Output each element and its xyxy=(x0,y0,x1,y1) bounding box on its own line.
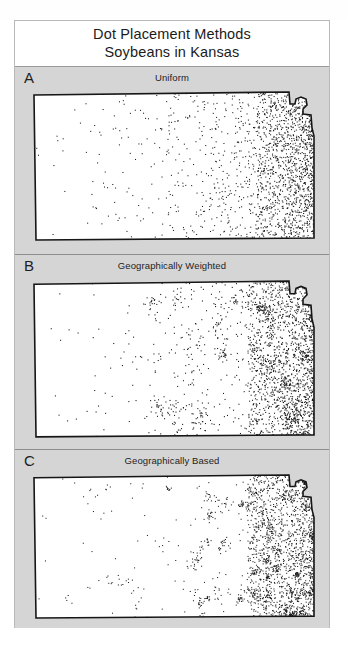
map-kansas-uniform xyxy=(31,90,317,242)
panel-geographically-weighted: B Geographically Weighted xyxy=(15,254,329,449)
scan-margin-top xyxy=(0,0,347,20)
kansas-outline-a xyxy=(34,92,314,240)
figure-title-line-1: Dot Placement Methods xyxy=(93,26,251,43)
map-kansas-geographically-weighted xyxy=(31,279,317,439)
kansas-map-svg-a xyxy=(31,90,317,242)
figure-frame: Dot Placement Methods Soybeans in Kansas… xyxy=(14,20,330,628)
kansas-outline-b xyxy=(34,281,314,437)
panel-uniform: A Uniform xyxy=(15,67,329,254)
kansas-map-svg-c xyxy=(31,473,317,620)
kansas-map-svg-b xyxy=(31,279,317,439)
panel-subtitle-geographically-based: Geographically Based xyxy=(15,455,329,466)
panel-subtitle-geographically-weighted: Geographically Weighted xyxy=(15,260,329,271)
panel-geographically-based: C Geographically Based xyxy=(15,449,329,628)
figure-title-line-2: Soybeans in Kansas xyxy=(105,44,240,61)
map-kansas-geographically-based xyxy=(31,473,317,620)
figure-page: Dot Placement Methods Soybeans in Kansas… xyxy=(0,0,347,645)
panel-subtitle-uniform: Uniform xyxy=(15,72,329,83)
figure-title-box: Dot Placement Methods Soybeans in Kansas xyxy=(15,21,329,67)
